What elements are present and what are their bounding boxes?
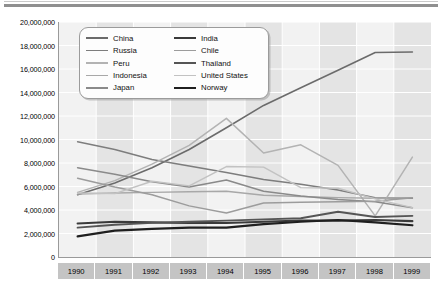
legend-line-swatch-icon bbox=[86, 75, 108, 77]
x-axis-tick-label: 1994 bbox=[207, 263, 244, 279]
legend-line-swatch-icon bbox=[174, 87, 196, 89]
legend-item-label: Japan bbox=[113, 83, 134, 92]
legend-item-label: India bbox=[201, 34, 218, 43]
legend-column-left: ChinaRussiaPeruIndonesiaJapan bbox=[86, 32, 174, 94]
header-hairline bbox=[4, 1, 438, 2]
legend-line-swatch-icon bbox=[86, 87, 108, 89]
y-axis-tick-label: 8,000,000 bbox=[24, 159, 55, 168]
y-axis-tick-label: 20,000,000 bbox=[20, 18, 55, 27]
legend-line-swatch-icon bbox=[174, 75, 196, 77]
legend-item-label: Peru bbox=[113, 59, 129, 68]
y-axis-tick-label: 10,000,000 bbox=[20, 135, 55, 144]
legend-item: Thailand bbox=[174, 57, 262, 69]
x-axis-tick-label: 1990 bbox=[58, 263, 95, 279]
x-axis-tick-label: 1997 bbox=[319, 263, 356, 279]
x-axis-tick-label: 1999 bbox=[394, 263, 430, 279]
x-axis-tick-label: 1995 bbox=[244, 263, 281, 279]
legend-item: United States bbox=[174, 69, 262, 81]
legend-line-swatch-icon bbox=[86, 62, 108, 64]
x-axis-tick-label: 1998 bbox=[356, 263, 393, 279]
legend-item-label: Chile bbox=[201, 46, 219, 55]
x-axis-tick-label: 1993 bbox=[170, 263, 207, 279]
y-axis-labels: 20,000,00018,000,00016,000,00014,000,000… bbox=[0, 22, 55, 257]
legend-line-swatch-icon bbox=[174, 50, 196, 52]
legend-line-swatch-icon bbox=[174, 62, 196, 64]
legend-item: India bbox=[174, 32, 262, 44]
legend-item: China bbox=[86, 32, 174, 44]
x-axis-labels: 1990199119921993199419951996199719981999 bbox=[58, 263, 430, 279]
header-divider-rule bbox=[4, 4, 438, 7]
y-axis-tick-label: 6,000,000 bbox=[24, 182, 55, 191]
legend-item: Russia bbox=[86, 44, 174, 56]
legend-column-right: IndiaChileThailandUnited StatesNorway bbox=[174, 32, 262, 94]
legend-item-label: Russia bbox=[113, 46, 137, 55]
y-axis-tick-label: 14,000,000 bbox=[20, 88, 55, 97]
legend-item: Indonesia bbox=[86, 69, 174, 81]
legend-item-label: Indonesia bbox=[113, 71, 147, 80]
y-axis-tick-label: 4,000,000 bbox=[24, 206, 55, 215]
legend-line-swatch-icon bbox=[86, 50, 108, 52]
line-chart: 20,000,00018,000,00016,000,00014,000,000… bbox=[0, 10, 442, 295]
legend-item-label: China bbox=[113, 34, 133, 43]
y-axis-tick-label: 2,000,000 bbox=[24, 229, 55, 238]
y-axis-tick-label: 18,000,000 bbox=[20, 41, 55, 50]
x-axis-tick-label: 1996 bbox=[282, 263, 319, 279]
y-axis-tick-label: 16,000,000 bbox=[20, 65, 55, 74]
legend-item: Norway bbox=[174, 82, 262, 94]
legend-item: Japan bbox=[86, 82, 174, 94]
y-axis-tick-label: 12,000,000 bbox=[20, 112, 55, 121]
legend-line-swatch-icon bbox=[174, 37, 196, 39]
chart-legend: ChinaRussiaPeruIndonesiaJapan IndiaChile… bbox=[79, 27, 269, 99]
x-axis-tick-label: 1991 bbox=[95, 263, 132, 279]
legend-item: Chile bbox=[174, 44, 262, 56]
legend-item: Peru bbox=[86, 57, 174, 69]
legend-line-swatch-icon bbox=[86, 37, 108, 39]
legend-item-label: United States bbox=[201, 71, 248, 80]
y-axis-tick-label: 0 bbox=[51, 253, 55, 262]
legend-item-label: Thailand bbox=[201, 59, 231, 68]
x-axis-tick-label: 1992 bbox=[133, 263, 170, 279]
legend-item-label: Norway bbox=[201, 83, 227, 92]
